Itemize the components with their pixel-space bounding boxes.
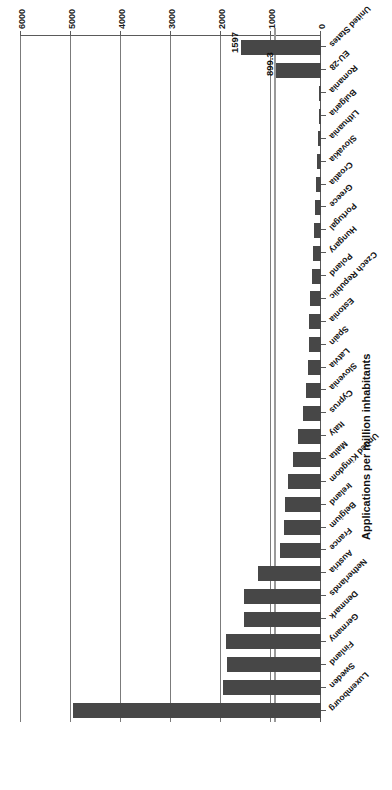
category-tick: [321, 46, 326, 47]
category-tick: [321, 527, 326, 528]
bar: [308, 360, 321, 375]
category-tick: [321, 344, 326, 345]
bar-row: [21, 82, 321, 105]
category-tick: [321, 458, 326, 459]
axis-tick-label: 1000: [267, 9, 277, 29]
bar-row: [21, 265, 321, 288]
category-tick: [321, 389, 326, 390]
category-label: Cyprus: [327, 388, 355, 416]
chart-figure-rotated: Applications per million inhabitants 010…: [0, 0, 392, 790]
axis-tick-label: 5000: [67, 9, 77, 29]
category-tick: [321, 710, 326, 711]
bar-row: [21, 631, 321, 654]
bar-row: [21, 653, 321, 676]
bar: [245, 589, 322, 604]
bar-row: [21, 356, 321, 379]
bar-row: [21, 539, 321, 562]
category-label: United States: [327, 4, 372, 49]
category-tick: [321, 184, 326, 185]
bar: [316, 177, 321, 192]
category-tick: [321, 618, 326, 619]
bar-row: [21, 242, 321, 265]
bar-row: [21, 150, 321, 173]
bar-row: [21, 585, 321, 608]
bar: [311, 291, 322, 306]
bar: [293, 452, 321, 467]
bar: [285, 497, 321, 512]
bar-row: [21, 425, 321, 448]
category-tick: [321, 298, 326, 299]
bar: [241, 40, 321, 55]
bar: [244, 612, 321, 627]
bar: [315, 200, 321, 215]
bar: [259, 566, 322, 581]
bar-row: [21, 470, 321, 493]
bar-row: [21, 608, 321, 631]
bar: [227, 657, 321, 672]
category-tick: [321, 367, 326, 368]
bar: [312, 269, 321, 284]
bar-row: [21, 562, 321, 585]
axis-tick-label: 4000: [117, 9, 127, 29]
category-tick: [321, 229, 326, 230]
category-label: Croatia: [327, 159, 355, 187]
bar-row: [21, 310, 321, 333]
category-tick: [321, 69, 326, 70]
category-tick: [321, 481, 326, 482]
category-tick: [321, 321, 326, 322]
bar: [313, 246, 321, 261]
bar-row: [21, 493, 321, 516]
category-tick: [321, 161, 326, 162]
bar: [319, 86, 321, 101]
bar-row: [21, 36, 321, 59]
category-tick: [321, 687, 326, 688]
bar-row: [21, 105, 321, 128]
bar-row: [21, 402, 321, 425]
category-label: Italy: [327, 420, 346, 439]
category-tick: [321, 641, 326, 642]
bar: [315, 223, 322, 238]
bar: [298, 429, 321, 444]
axis-tick-label: 0: [317, 24, 327, 29]
category-tick: [321, 138, 326, 139]
bar-row: [21, 288, 321, 311]
category-label: Estonia: [327, 296, 356, 325]
category-tick: [321, 435, 326, 436]
bar: [289, 474, 322, 489]
bar: [306, 383, 321, 398]
bar-row: [21, 676, 321, 699]
value-annotation: 899.3: [264, 53, 275, 77]
bar-row: [21, 59, 321, 82]
bar: [226, 634, 321, 649]
bar: [310, 314, 322, 329]
category-tick: [321, 92, 326, 93]
category-tick: [321, 664, 326, 665]
bar-row: [21, 219, 321, 242]
bar: [276, 63, 321, 78]
category-tick: [321, 115, 326, 116]
bar: [304, 406, 322, 421]
category-tick: [321, 504, 326, 505]
bar: [284, 520, 321, 535]
bar: [319, 109, 321, 124]
category-tick: [321, 595, 326, 596]
axis-tick-label: 6000: [17, 9, 27, 29]
category-tick: [321, 207, 326, 208]
bar-row: [21, 516, 321, 539]
category-tick: [321, 252, 326, 253]
category-tick: [321, 275, 326, 276]
axis-tick-label: 2000: [217, 9, 227, 29]
bar-row: [21, 379, 321, 402]
axis-tick-label: 3000: [167, 9, 177, 29]
bar: [318, 131, 321, 146]
bar: [223, 680, 321, 695]
bar-row: [21, 699, 321, 722]
bar: [281, 543, 322, 558]
category-label: Spain: [327, 324, 350, 347]
bar-row: [21, 173, 321, 196]
category-tick: [321, 412, 326, 413]
category-tick: [321, 572, 326, 573]
bar-row: [21, 333, 321, 356]
value-annotation: 1597: [229, 32, 240, 53]
bar: [317, 154, 321, 169]
